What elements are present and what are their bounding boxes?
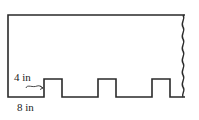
break-line [182, 15, 184, 97]
pointer-arrowhead-icon [40, 86, 43, 90]
board-diagram: 4 in 8 in [0, 0, 199, 120]
tab-height-label: 4 in [14, 71, 31, 83]
board-outline [8, 15, 185, 97]
segment-width-label: 8 in [17, 101, 34, 113]
